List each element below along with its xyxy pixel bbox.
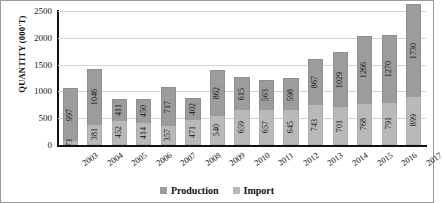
stacked-bar[interactable]: 1266768 [357, 36, 372, 145]
bar-value-label-import: 381 [91, 128, 99, 140]
bar-segment-production[interactable]: 598 [283, 78, 298, 110]
stacked-bar[interactable]: 563657 [259, 80, 274, 145]
x-axis-tick-label: 2013 [326, 150, 346, 168]
stacked-bar[interactable]: 598645 [283, 78, 298, 145]
bar-segment-production[interactable]: 402 [185, 98, 200, 120]
x-axis-line [57, 145, 427, 147]
bar-value-label-import: 540 [213, 124, 221, 136]
bar-segment-import[interactable]: 899 [406, 97, 421, 145]
bar-value-label-production: 598 [287, 89, 295, 101]
y-axis-tick-label: 500 [39, 113, 53, 123]
bar-series-group: 9977310463814114524504147173574024718625… [58, 11, 426, 145]
bar-value-label-import: 452 [115, 126, 123, 138]
stacked-bar[interactable]: 862540 [210, 70, 225, 145]
bar-value-label-import: 701 [336, 120, 344, 132]
x-axis-tick-label: 2005 [129, 150, 149, 168]
x-axis-tick-label: 2007 [178, 150, 198, 168]
bar-value-label-production: 1266 [361, 62, 369, 78]
y-axis-title: QUANTITY (000'T) [17, 0, 27, 119]
x-axis-tick-label: 2006 [154, 150, 174, 168]
x-axis-tick-label: 2004 [105, 150, 125, 168]
bar-segment-production[interactable]: 1029 [333, 52, 348, 107]
bar-segment-import[interactable]: 73 [63, 141, 78, 145]
bar-value-label-production: 450 [140, 105, 148, 117]
x-axis-tick-label: 2014 [350, 150, 370, 168]
bar-segment-import[interactable]: 659 [234, 110, 249, 145]
x-axis-tick-label: 2003 [80, 150, 100, 168]
bar-segment-production[interactable]: 1730 [406, 4, 421, 97]
x-axis-tick-label: 2011 [276, 150, 295, 168]
bar-value-label-production: 717 [164, 101, 172, 113]
x-axis-tick-label: 2008 [203, 150, 223, 168]
bar-value-label-production: 1270 [385, 61, 393, 77]
plot-area: 05001000150020002500 9977310463814114524… [58, 11, 426, 145]
legend-label: Import [244, 185, 275, 196]
bar-segment-import[interactable]: 452 [112, 121, 127, 145]
x-axis-tick-label: 2016 [399, 150, 419, 168]
bar-segment-production[interactable]: 997 [63, 88, 78, 141]
bar-segment-import[interactable]: 657 [259, 110, 274, 145]
legend-swatch [233, 187, 240, 194]
x-axis-tick-label: 2012 [301, 150, 321, 168]
bar-segment-import[interactable]: 357 [161, 126, 176, 145]
bar-segment-production[interactable]: 1266 [357, 36, 372, 104]
bar-segment-import[interactable]: 645 [283, 110, 298, 145]
bar-value-label-production: 563 [263, 89, 271, 101]
stacked-bar[interactable]: 402471 [185, 98, 200, 145]
bar-segment-import[interactable]: 381 [87, 125, 102, 145]
bar-segment-production[interactable]: 867 [308, 59, 323, 105]
stacked-bar[interactable]: 717357 [161, 87, 176, 145]
y-axis-tick-label: 2000 [34, 33, 52, 43]
bar-value-label-production: 411 [115, 104, 123, 116]
bar-segment-production[interactable]: 563 [259, 80, 274, 110]
bar-value-label-import: 791 [385, 117, 393, 129]
bar-segment-import[interactable]: 701 [333, 107, 348, 145]
bar-value-label-import: 645 [287, 121, 295, 133]
x-axis-tick-label: 2010 [252, 150, 272, 168]
y-axis-tick-label: 1000 [34, 86, 52, 96]
stacked-bar[interactable]: 411452 [112, 99, 127, 145]
bar-segment-production[interactable]: 717 [161, 87, 176, 125]
bar-value-label-production: 997 [66, 109, 74, 121]
stacked-bar[interactable]: 867743 [308, 59, 323, 145]
x-axis-tick-label: 2017 [424, 150, 443, 168]
bar-value-label-import: 768 [361, 118, 369, 130]
bar-value-label-import: 471 [189, 126, 197, 138]
bar-segment-production[interactable]: 450 [136, 99, 151, 123]
stacked-bar[interactable]: 99773 [63, 88, 78, 145]
stacked-bar[interactable]: 1029701 [333, 52, 348, 145]
stacked-bar[interactable]: 450414 [136, 99, 151, 145]
legend-item[interactable]: Import [233, 185, 275, 196]
stacked-bar[interactable]: 1270791 [382, 35, 397, 145]
bar-segment-import[interactable]: 540 [210, 116, 225, 145]
bar-value-label-production: 1730 [410, 43, 418, 59]
bar-value-label-import: 657 [263, 121, 271, 133]
bar-value-label-production: 615 [238, 88, 246, 100]
bar-segment-import[interactable]: 414 [136, 123, 151, 145]
x-axis-tick-label: 2015 [375, 150, 395, 168]
stacked-bar[interactable]: 1730899 [406, 4, 421, 145]
bar-segment-import[interactable]: 471 [185, 120, 200, 145]
bar-segment-production[interactable]: 411 [112, 99, 127, 121]
bar-segment-production[interactable]: 862 [210, 70, 225, 116]
y-axis-tick-label: 1500 [34, 60, 52, 70]
bar-value-label-import: 743 [312, 118, 320, 130]
x-axis-labels: 2003200420052006200720082009201020112012… [58, 148, 426, 178]
stacked-bar[interactable]: 615659 [234, 77, 249, 145]
bar-value-label-import: 357 [164, 129, 172, 141]
bar-value-label-import: 659 [238, 121, 246, 133]
bar-segment-import[interactable]: 743 [308, 105, 323, 145]
bar-segment-production[interactable]: 1046 [87, 69, 102, 125]
chart-legend: ProductionImport [1, 185, 433, 196]
bar-value-label-production: 1029 [336, 72, 344, 88]
bar-segment-import[interactable]: 768 [357, 104, 372, 145]
stacked-bar[interactable]: 1046381 [87, 69, 102, 145]
bar-segment-production[interactable]: 1270 [382, 35, 397, 103]
bar-value-label-production: 402 [189, 103, 197, 115]
legend-item[interactable]: Production [160, 185, 219, 196]
bar-segment-import[interactable]: 791 [382, 103, 397, 145]
x-axis-tick-label: 2009 [227, 150, 247, 168]
bar-value-label-production: 862 [213, 87, 221, 99]
bar-segment-production[interactable]: 615 [234, 77, 249, 110]
